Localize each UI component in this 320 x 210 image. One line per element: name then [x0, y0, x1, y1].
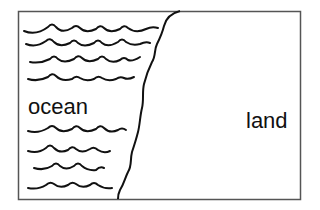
- land-label: land: [246, 110, 288, 132]
- waves-icon: [28, 126, 126, 189]
- waves-icon: [24, 25, 158, 81]
- coastline-curve: [118, 11, 180, 199]
- ocean-label: ocean: [28, 96, 88, 118]
